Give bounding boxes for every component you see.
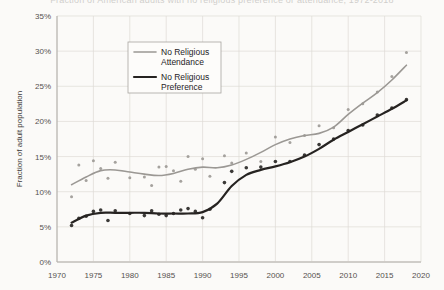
y-tick-label-25%: 25% <box>35 82 51 91</box>
data-point <box>259 160 262 163</box>
data-point <box>92 159 95 162</box>
data-point <box>172 169 175 172</box>
data-point <box>318 124 321 127</box>
data-point <box>288 141 291 144</box>
data-point <box>274 135 277 138</box>
data-point <box>179 180 182 183</box>
legend-label-no-religious-attendance: No Religious <box>161 47 209 57</box>
data-point <box>186 207 190 211</box>
y-tick-label-15%: 15% <box>35 153 51 162</box>
data-point <box>259 165 263 169</box>
data-point <box>201 216 205 220</box>
x-tick-label-1990: 1990 <box>194 271 212 280</box>
data-point <box>157 166 160 169</box>
x-tick-label-1975: 1975 <box>85 271 103 280</box>
data-point <box>99 167 102 170</box>
data-point <box>208 175 211 178</box>
data-point <box>223 154 226 157</box>
x-tick-label-2005: 2005 <box>303 271 321 280</box>
data-point <box>405 51 408 54</box>
x-tick-label-2020: 2020 <box>412 271 430 280</box>
data-point <box>274 160 278 164</box>
data-point <box>106 177 109 180</box>
data-point <box>165 165 168 168</box>
y-tick-label-35%: 35% <box>35 12 51 21</box>
y-axis-title: Fraction of adult population <box>15 91 24 188</box>
data-point <box>85 179 88 182</box>
data-point <box>106 219 110 223</box>
data-point <box>230 170 234 174</box>
x-tick-label-2010: 2010 <box>339 271 357 280</box>
data-point <box>70 224 74 228</box>
data-point <box>390 75 393 78</box>
data-point <box>128 176 131 179</box>
data-point <box>150 184 153 187</box>
data-point <box>143 214 147 218</box>
x-tick-label-1980: 1980 <box>121 271 139 280</box>
x-tick-label-2015: 2015 <box>376 271 394 280</box>
data-point <box>245 152 248 155</box>
data-point <box>223 181 227 185</box>
data-point <box>70 195 73 198</box>
data-point <box>77 164 80 167</box>
y-tick-label-20%: 20% <box>35 117 51 126</box>
chart-container: Fraction of American adults with no reli… <box>0 0 444 290</box>
data-point <box>114 161 117 164</box>
data-point <box>143 175 146 178</box>
data-point <box>317 143 321 147</box>
data-point <box>244 166 248 170</box>
data-point <box>201 157 204 160</box>
data-point <box>347 108 350 111</box>
legend-label-no-religious-attendance-line2: Attendance <box>161 57 204 67</box>
x-tick-label-1970: 1970 <box>48 271 66 280</box>
data-point <box>187 155 190 158</box>
x-tick-label-1985: 1985 <box>157 271 175 280</box>
x-tick-label-2000: 2000 <box>267 271 285 280</box>
data-point <box>179 208 183 212</box>
data-point <box>99 208 103 212</box>
legend-label-no-religious-preference-line2: Preference <box>161 82 203 92</box>
legend-label-no-religious-preference: No Religious <box>161 72 209 82</box>
scatter-plot: 0%5%10%15%20%25%30%35%197019751980198519… <box>0 0 444 290</box>
x-tick-label-1995: 1995 <box>230 271 248 280</box>
y-tick-label-0%: 0% <box>39 258 51 267</box>
y-tick-label-5%: 5% <box>39 223 51 232</box>
y-tick-label-30%: 30% <box>35 47 51 56</box>
data-point <box>150 209 154 213</box>
y-tick-label-10%: 10% <box>35 188 51 197</box>
chart-legend: No ReligiousAttendanceNo ReligiousPrefer… <box>128 42 221 93</box>
